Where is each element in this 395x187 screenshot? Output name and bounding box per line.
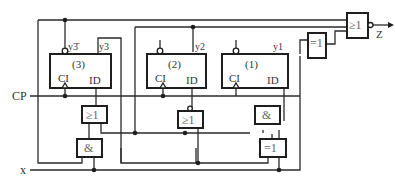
svg-text:(1): (1): [245, 58, 258, 71]
flip-flop-3: y3̄ y3 (3) CI ID: [50, 41, 111, 88]
svg-text:(3): (3): [72, 58, 85, 71]
wire-mid-h: [101, 123, 250, 133]
svg-text:CI: CI: [229, 72, 240, 84]
gate-nor-output: ≥1: [347, 13, 373, 38]
svg-text:ID: ID: [267, 74, 279, 86]
arrow-icon: [388, 22, 394, 28]
svg-text:=1: =1: [310, 36, 323, 50]
gate-xor-bottom: =1: [260, 139, 286, 157]
svg-text:ID: ID: [89, 74, 101, 86]
svg-text:≥1: ≥1: [182, 113, 195, 127]
inverted-output-bubble: [62, 48, 68, 54]
wire-xor-to-nor: [326, 31, 349, 44]
svg-text:≥1: ≥1: [349, 18, 362, 32]
svg-text:y1: y1: [273, 41, 283, 52]
svg-text:=1: =1: [264, 141, 277, 155]
flip-flop-1: y1 (1) CI ID: [222, 40, 288, 88]
svg-text:ID: ID: [186, 74, 198, 86]
svg-text:&: &: [84, 141, 94, 155]
gate-and-right: &: [255, 106, 280, 124]
svg-text:≥1: ≥1: [86, 108, 99, 122]
gate-or-left: ≥1: [82, 106, 107, 123]
gate-or-mid: ≥1: [178, 106, 203, 128]
gate-and-left: &: [77, 139, 102, 157]
input-signal-label: x: [20, 163, 26, 177]
flip-flop-2: y2 (2) CI ID: [147, 40, 206, 88]
svg-text:CI: CI: [58, 72, 69, 84]
svg-text:(2): (2): [168, 58, 181, 71]
ff3-inverted-output-label: y3̄: [68, 41, 80, 52]
output-signal-label: Z: [376, 28, 383, 40]
svg-text:CI: CI: [155, 72, 166, 84]
circuit-diagram: y3̄ y3 (3) CI ID y2 (2) CI ID y1 (1) CI …: [0, 0, 395, 187]
svg-text:&: &: [262, 108, 272, 122]
svg-text:y2: y2: [195, 41, 205, 52]
clock-signal-label: CP: [12, 89, 27, 103]
svg-text:y3: y3: [99, 41, 109, 52]
gate-xor-top: =1: [308, 33, 326, 58]
